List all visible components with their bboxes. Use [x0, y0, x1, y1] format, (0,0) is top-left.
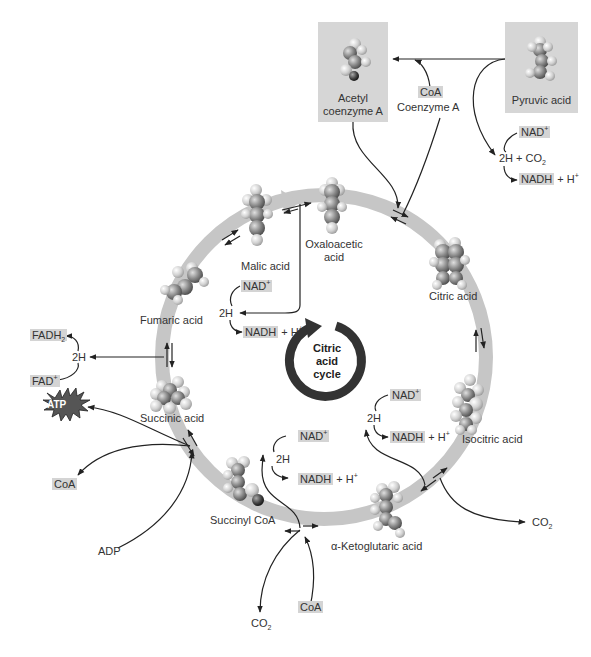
atp-label: ATP	[47, 398, 66, 411]
isocitrate-nadh-label: NADH + H+	[390, 431, 450, 444]
coenzyme-a-label: Coenzyme A	[397, 101, 459, 114]
pyruvate-products-label: 2H + CO2	[499, 152, 546, 165]
acetyl-coa-line1: Acetyl	[318, 92, 388, 105]
ketoglutaric-text: α-Ketoglutaric acid	[331, 540, 422, 552]
oxaloacetic-acid-label: Oxaloacetic acid	[303, 238, 365, 264]
h2-text: 2H	[367, 412, 381, 424]
h-sup: +	[354, 472, 358, 479]
fad-curve	[58, 363, 78, 380]
fadh2-curve	[66, 336, 78, 351]
fadh2-label: FADH2	[30, 329, 67, 342]
acetyl-coa-line2: coenzyme A	[318, 105, 388, 118]
nadh-text: NADH	[519, 173, 554, 185]
pyruvic-acid-label: Pyruvic acid	[505, 94, 578, 107]
isocitric-text: Isocitric acid	[462, 433, 523, 445]
acetyl-coa-label: Acetyl coenzyme A	[318, 92, 388, 118]
h-text: + H	[281, 326, 298, 338]
coa-text: CoA	[298, 601, 323, 613]
keto-co2-out-arrow	[260, 530, 300, 612]
malate-2h-label: 2H	[219, 307, 233, 320]
iso-nad-curve	[375, 395, 388, 411]
citric-acid-molecule	[429, 237, 470, 290]
keto-co2-label: CO2	[251, 617, 271, 630]
nad-text: NAD	[300, 430, 323, 442]
nad-sup: +	[323, 429, 327, 436]
h2-text: 2H	[276, 453, 290, 465]
malic-acid-molecule	[241, 184, 273, 246]
pyruvate-nad-curve	[504, 133, 517, 152]
adp-in-arrow	[118, 452, 192, 548]
co2-sub: 2	[549, 523, 553, 530]
oxaloacetic-acid-molecule	[317, 177, 347, 234]
malic-acid-label: Malic acid	[241, 260, 290, 273]
fumaric-text: Fumaric acid	[140, 314, 203, 326]
citric-text: Citric acid	[429, 290, 477, 302]
fumaric-acid-label: Fumaric acid	[140, 314, 203, 327]
pyruvate-nadh-curve	[504, 166, 517, 180]
keto-nadh-curve	[272, 466, 288, 478]
adp-text: ADP	[98, 545, 121, 557]
coa-out-arrow	[78, 444, 190, 475]
malic-text: Malic acid	[241, 260, 290, 272]
malate-nadh-curve	[230, 320, 242, 332]
fad-label: FAD+	[30, 375, 60, 388]
fad-2h-label: 2H	[72, 351, 86, 364]
atp-text: ATP	[47, 399, 66, 410]
succinic-acid-label: Succinic acid	[140, 412, 204, 425]
isocitrate-nad-label: NAD+	[390, 389, 421, 402]
coa-text: CoA	[52, 478, 77, 490]
h-text: + H	[428, 431, 445, 443]
nadh-text: NADH	[298, 473, 333, 485]
coa-release-line	[403, 118, 440, 214]
coenzyme-a-arrow	[415, 60, 430, 87]
nad-sup: +	[266, 279, 270, 286]
succinyl-coa-label: Succinyl CoA	[210, 514, 275, 527]
keto-nad-label: NAD+	[298, 430, 329, 443]
h-text: + H	[557, 173, 574, 185]
h2-text: 2H	[72, 351, 86, 363]
coa-box-label: CoA	[418, 86, 443, 99]
atp-coa-label: CoA	[52, 478, 77, 491]
nad-text: NAD	[392, 389, 415, 401]
coenzyme-a-text: Coenzyme A	[397, 101, 459, 113]
isocitrate-co2-label: CO2	[532, 516, 552, 529]
oxaloacetic-line2: acid	[303, 251, 365, 264]
h-text: + H	[336, 473, 353, 485]
fadh-text: FADH	[32, 329, 61, 341]
fad-sup: +	[53, 374, 57, 381]
h-sup: +	[575, 172, 579, 179]
co2-text: CO	[251, 617, 268, 629]
succinic-text: Succinic acid	[140, 412, 204, 424]
co2-sub: 2	[268, 624, 272, 631]
succinyl-text: Succinyl CoA	[210, 514, 275, 526]
keto-coa-in-arrow	[305, 537, 313, 607]
keto-2h-label: 2H	[276, 453, 290, 466]
nadh-text: NADH	[243, 326, 278, 338]
co2-sub: 2	[542, 159, 546, 166]
products-text: 2H + CO	[499, 152, 542, 164]
malate-nad-curve	[230, 286, 240, 306]
oxaloacetic-line1: Oxaloacetic	[303, 238, 365, 251]
h-sup: +	[446, 430, 450, 437]
isocitrate-2h-label: 2H	[367, 412, 381, 425]
nad-sup: +	[415, 388, 419, 395]
cycle-line3: cycle	[297, 368, 357, 381]
cycle-center-label: Citric acid cycle	[297, 342, 357, 381]
fad-text: FAD	[32, 375, 53, 387]
pyruvate-nad-label: NAD+	[519, 126, 550, 139]
keto-nad-curve	[274, 436, 287, 452]
nad-text: NAD	[521, 126, 544, 138]
citric-acid-label: Citric acid	[429, 290, 477, 303]
adp-label: ADP	[98, 545, 121, 558]
iso-nadh-curve	[374, 425, 388, 437]
h2-text: 2H	[219, 307, 233, 319]
nad-sup: +	[544, 125, 548, 132]
keto-nadh-label: NADH + H+	[298, 473, 358, 486]
keto-coa-label: CoA	[298, 601, 323, 614]
isocitric-acid-label: Isocitric acid	[462, 433, 523, 446]
ketoglutaric-acid-label: α-Ketoglutaric acid	[331, 540, 422, 553]
pyruvate-nadh-label: NADH + H+	[519, 173, 579, 186]
pyruvate-side-arrow	[473, 59, 505, 155]
iso-co2-out-arrow	[440, 478, 525, 522]
succinic-acid-molecule	[150, 376, 192, 414]
